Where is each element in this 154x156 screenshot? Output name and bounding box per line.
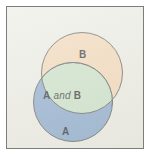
venn-stage: B A and B A [7,7,143,148]
venn-diagram-figure: B A and B A [0,0,154,156]
intersection-label: A and B [43,91,81,101]
diagram-frame: B A and B A [6,6,144,149]
set-a-label: A [62,127,69,137]
intersection-label-and: and [53,90,70,101]
intersection-label-b: B [74,90,81,101]
set-b-label: B [79,50,86,60]
